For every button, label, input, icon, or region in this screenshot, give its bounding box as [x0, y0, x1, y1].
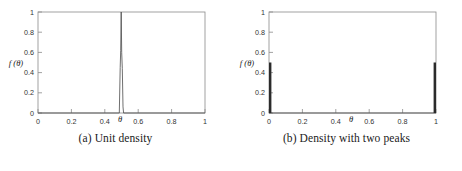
y-axis-label-a: f (θ) [9, 58, 24, 68]
x-axis-label-b: θ [349, 114, 354, 124]
x-tick-label-a-3: 0.6 [133, 117, 143, 126]
y-tick-label-a-2: 0.4 [24, 68, 34, 77]
x-axis-ticks-b [269, 109, 436, 113]
figure-container: 0 0.2 0.4 0.6 0.8 1 0 0.2 0.4 0.6 0.8 1 … [0, 0, 462, 171]
y-tick-label-b-0: 0 [261, 109, 265, 118]
caption-a: (a) Unit density [0, 132, 231, 144]
x-tick-label-b-0: 0 [267, 117, 271, 126]
x-tick-label-a-1: 0.2 [66, 117, 76, 126]
x-axis-ticks-a [38, 109, 205, 113]
plot-a: 0 0.2 0.4 0.6 0.8 1 0 0.2 0.4 0.6 0.8 1 … [0, 0, 231, 132]
plot-frame-b [269, 12, 436, 113]
y-tick-label-a-4: 0.8 [24, 28, 34, 37]
y-tick-label-a-0: 0 [30, 109, 34, 118]
y-axis-ticks-a [38, 12, 42, 113]
y-tick-label-b-5: 1 [261, 8, 265, 17]
plot-b: 0 0.2 0.4 0.6 0.8 1 0 0.2 0.4 0.6 0.8 1 … [231, 0, 462, 132]
x-tick-label-a-2: 0.4 [100, 117, 110, 126]
y-tick-label-b-2: 0.4 [255, 68, 265, 77]
x-tick-label-b-5: 1 [434, 117, 438, 126]
bar-peak-left [269, 63, 271, 114]
unit-density-chart: 0 0.2 0.4 0.6 0.8 1 0 0.2 0.4 0.6 0.8 1 … [0, 0, 231, 132]
y-tick-label-b-1: 0.2 [255, 88, 265, 97]
y-tick-label-b-4: 0.8 [255, 28, 265, 37]
two-peak-density-chart: 0 0.2 0.4 0.6 0.8 1 0 0.2 0.4 0.6 0.8 1 … [231, 0, 462, 132]
caption-b: (b) Density with two peaks [231, 132, 462, 144]
x-tick-label-b-4: 0.8 [398, 117, 408, 126]
x-axis-label-a: θ [118, 114, 123, 124]
y-tick-label-a-1: 0.2 [24, 88, 34, 97]
x-tick-label-a-5: 1 [203, 117, 207, 126]
bar-peak-right [434, 63, 436, 114]
y-tick-label-a-5: 1 [30, 8, 34, 17]
x-tick-label-a-0: 0 [36, 117, 40, 126]
x-tick-label-a-4: 0.8 [167, 117, 177, 126]
density-curve-a [38, 12, 205, 113]
panel-a: 0 0.2 0.4 0.6 0.8 1 0 0.2 0.4 0.6 0.8 1 … [0, 0, 231, 171]
x-tick-label-b-3: 0.6 [364, 117, 374, 126]
y-tick-label-b-3: 0.6 [255, 48, 265, 57]
y-axis-label-b: f (θ) [240, 58, 255, 68]
x-tick-label-b-2: 0.4 [331, 117, 341, 126]
panel-b: 0 0.2 0.4 0.6 0.8 1 0 0.2 0.4 0.6 0.8 1 … [231, 0, 462, 171]
x-tick-label-b-1: 0.2 [297, 117, 307, 126]
y-tick-label-a-3: 0.6 [24, 48, 34, 57]
